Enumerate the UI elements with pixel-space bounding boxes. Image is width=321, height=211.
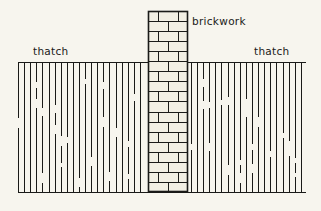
brick-column <box>148 11 188 193</box>
thatch-left-label: thatch <box>33 46 69 57</box>
brickwork-label: brickwork <box>192 16 246 27</box>
brickwork-thatch-diagram: brickwork thatch thatch <box>0 0 321 211</box>
thatch-right-label: thatch <box>254 46 290 57</box>
thatch-right-hatching <box>192 62 302 192</box>
thatch-left-hatching <box>19 62 141 192</box>
diagram-canvas <box>0 0 321 211</box>
